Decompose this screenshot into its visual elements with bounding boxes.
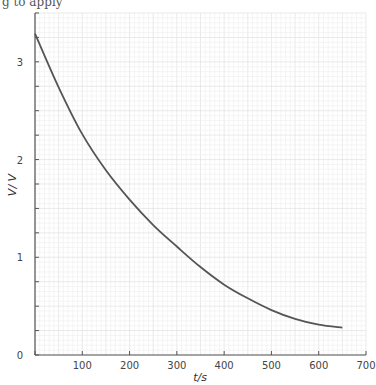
x-tick-label: 600 xyxy=(309,360,328,371)
x-tick-label: 700 xyxy=(356,360,375,371)
x-tick-label: 200 xyxy=(120,360,139,371)
x-tick-label: 300 xyxy=(167,360,186,371)
x-tick-label: 400 xyxy=(215,360,234,371)
y-axis-label: V/ V xyxy=(6,172,19,196)
y-tick-label: 1 xyxy=(17,252,23,263)
chart: g to apply 1002003004005006007000123 t/s… xyxy=(0,0,376,385)
y-tick-label: 2 xyxy=(17,155,23,166)
y-tick-label: 3 xyxy=(17,57,23,68)
y-tick-label: 0 xyxy=(17,350,23,361)
series-line-V xyxy=(35,34,342,328)
x-axis-label: t/s xyxy=(193,371,207,384)
series-layer xyxy=(35,34,342,328)
x-tick-label: 100 xyxy=(73,360,92,371)
x-tick-label: 500 xyxy=(262,360,281,371)
header-fragment: g to apply xyxy=(2,0,63,9)
grid xyxy=(35,13,366,355)
